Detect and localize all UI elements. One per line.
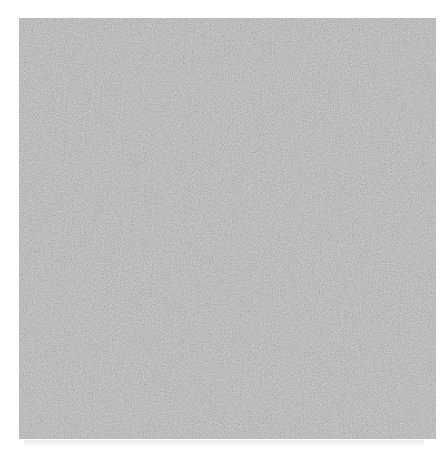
noise-texture-graphic	[19, 18, 436, 439]
image-bottom-shadow	[24, 440, 424, 448]
noise-texture-image	[19, 18, 436, 439]
